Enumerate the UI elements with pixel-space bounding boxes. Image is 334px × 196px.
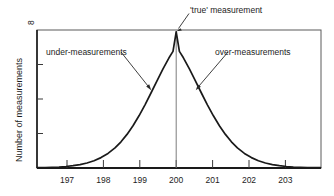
annotation-over-measurements: over-measurements (215, 47, 291, 57)
y-axis-max-tick-label: 8 (26, 20, 36, 25)
normal-distribution-figure: 8 Number of measurements 197 198 199 200… (0, 0, 334, 196)
measurement-distribution-chart (0, 0, 334, 196)
x-axis-tick-label-198: 198 (96, 175, 110, 185)
x-axis-tick-label-203: 203 (278, 175, 292, 185)
x-axis-tick-label-201: 201 (206, 175, 220, 185)
annotation-true-measurement: 'true' measurement (190, 5, 262, 15)
x-axis-tick-label-202: 202 (242, 175, 256, 185)
true-measurement-leader-arrow (177, 14, 189, 32)
x-axis-tick-label-200: 200 (169, 175, 183, 185)
y-axis-title: Number of measurements (14, 58, 24, 162)
x-axis-tick-label-199: 199 (133, 175, 147, 185)
x-axis-tick-label-197: 197 (60, 175, 74, 185)
annotation-under-measurements: under-measurements (46, 47, 127, 57)
